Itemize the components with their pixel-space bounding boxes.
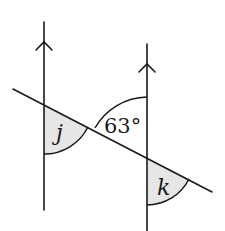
transversal-line (13, 89, 212, 192)
angle-j-sector (44, 105, 88, 154)
diagram-canvas: j 63° k (0, 0, 225, 231)
angle-63-label: 63° (104, 114, 141, 138)
angle-k-label: k (157, 175, 170, 200)
